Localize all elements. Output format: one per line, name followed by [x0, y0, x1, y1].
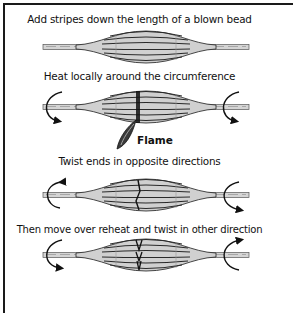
heat-band [136, 91, 140, 123]
bead-step-2 [43, 91, 249, 123]
bead-step-4 [43, 239, 249, 271]
bead-step-1 [43, 31, 249, 63]
bead-step-3 [43, 179, 249, 211]
